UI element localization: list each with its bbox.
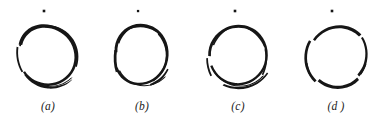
center-dot-icon-d [331,10,334,13]
brush-stroke-c-top-right-thin [247,28,265,48]
figure-panel-b: (b) [94,0,190,121]
panel-label-c: (c) [190,99,286,113]
ink-circle-b [94,0,190,99]
brush-stroke-b-trailing-lower-right [150,69,169,86]
panel-label-b: (b) [94,99,190,113]
ink-circle-a [0,0,96,99]
brush-stroke-d-bottom-segment [318,78,359,89]
center-dot-icon-a [43,10,46,13]
brush-stroke-d-top-segment [313,25,361,41]
panel-label-d: (d ) [288,99,384,113]
figure-container: (a) (b) [0,0,385,121]
brush-stroke-c-trailing-bottom [223,72,269,89]
brush-stroke-d-left-segment [304,40,316,82]
panel-label-a: (a) [0,99,96,113]
figure-panel-d: (d ) [288,0,384,121]
ink-circle-c [190,0,286,99]
figure-panel-a: (a) [0,0,96,121]
figure-panel-c: (c) [190,0,286,121]
center-dot-icon-c [234,10,237,13]
brush-stroke-a-overlap-lower [24,74,72,89]
ink-circle-d [288,0,384,99]
center-dot-icon-b [137,10,139,12]
brush-stroke-b-left-flank [114,50,119,72]
brush-stroke-a-left-flank [16,47,23,73]
